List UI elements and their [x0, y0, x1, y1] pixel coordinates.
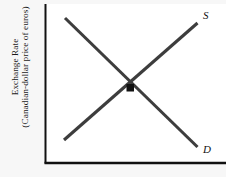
- exchange-rate-supply-demand-figure: Exchange Rate (Canadian-dollar price of …: [0, 0, 226, 177]
- equilibrium-marker: [127, 84, 135, 92]
- demand-curve-label: D: [203, 143, 211, 155]
- supply-curve-label: S: [203, 9, 209, 21]
- supply-curve: [64, 23, 198, 140]
- chart-canvas: [0, 0, 226, 177]
